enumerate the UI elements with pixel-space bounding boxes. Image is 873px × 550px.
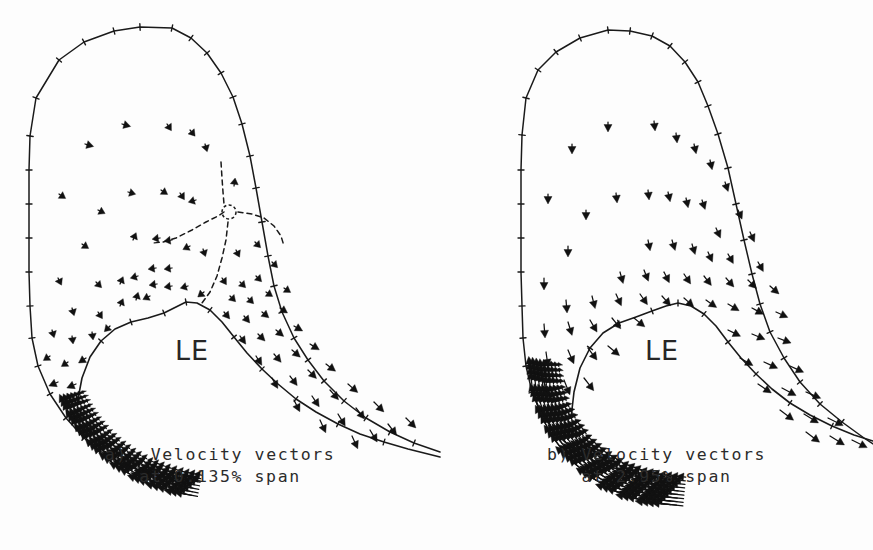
- velocity-vector-62-shaft: [782, 388, 789, 392]
- velocity-vector-plot-b: LE: [440, 0, 873, 490]
- velocity-vector-2-head: [188, 129, 195, 136]
- velocity-vector-6-head: [129, 189, 136, 197]
- velocity-vector-32-shaft: [770, 286, 773, 289]
- velocity-vector-39-head: [96, 311, 103, 318]
- figure-root: LE a) Velocity vectors at 0.135% span LE…: [0, 0, 873, 550]
- leading-edge-label: LE: [175, 335, 209, 366]
- outer-node-tick-15: [265, 255, 271, 256]
- velocity-vector-44-shaft: [568, 322, 570, 328]
- velocity-vector-45-shaft: [262, 312, 264, 313]
- velocity-vector-44-shaft: [244, 316, 245, 318]
- velocity-vector-10-head: [665, 194, 673, 202]
- outer-node-tick-16: [749, 273, 755, 275]
- outer-node-tick-16: [271, 285, 277, 287]
- velocity-vector-43-shaft: [224, 312, 225, 314]
- velocity-vector-55-head: [43, 354, 50, 361]
- velocity-vector-26-shaft: [644, 270, 646, 274]
- velocity-vector-48-head: [68, 337, 76, 344]
- velocity-vector-25-head: [617, 275, 625, 283]
- velocity-vector-52-shaft: [258, 334, 260, 336]
- velocity-vector-11-shaft: [686, 198, 687, 200]
- caption-a-line1: a) Velocity vectors: [0, 444, 440, 466]
- wall-vector-r5-29-shaft: [668, 494, 683, 496]
- blade-node-tick-1: [130, 319, 132, 325]
- velocity-vector-31-shaft: [222, 278, 223, 279]
- panel-b: LE b) Velocity vectors at 2.95% span: [440, 0, 873, 490]
- velocity-vector-34-shaft: [230, 296, 231, 297]
- velocity-vector-19-shaft: [236, 250, 237, 252]
- velocity-vector-7-head: [544, 197, 552, 205]
- velocity-vector-5-shaft: [710, 160, 711, 162]
- wall-vector-r0-12-shaft: [585, 432, 586, 433]
- velocity-vector-0-head: [123, 121, 131, 129]
- velocity-vector-46-head: [613, 320, 621, 328]
- velocity-vector-1-head: [650, 123, 658, 131]
- velocity-vector-7-head: [160, 188, 167, 195]
- velocity-vector-50-shaft: [109, 326, 110, 327]
- velocity-vector-26-head: [164, 264, 171, 272]
- velocity-vector-57-head: [79, 356, 87, 363]
- velocity-vector-61-shaft: [758, 384, 765, 389]
- velocity-vector-44-head: [242, 315, 250, 323]
- velocity-vector-34-shaft: [592, 296, 593, 301]
- outer-node-tick-13: [725, 167, 731, 169]
- velocity-vector-53-shaft: [276, 330, 278, 332]
- velocity-vector-13-shaft: [133, 238, 134, 240]
- velocity-vector-10-shaft: [668, 192, 669, 194]
- wall-vector-r6-25-shaft: [182, 493, 198, 496]
- velocity-vector-36-head: [640, 296, 648, 304]
- velocity-vector-19-shaft: [672, 240, 673, 243]
- velocity-vector-65-head: [290, 377, 298, 385]
- velocity-vector-34-head: [228, 294, 235, 301]
- velocity-vector-0-shaft: [122, 124, 124, 125]
- velocity-vector-23-shaft: [120, 282, 121, 284]
- velocity-vector-45-shaft: [590, 320, 593, 326]
- separatrix-branch-0: [221, 162, 224, 204]
- velocity-vector-16-shaft: [750, 232, 751, 235]
- outer-node-tick-14: [259, 221, 265, 222]
- velocity-vector-18-head: [645, 243, 653, 251]
- velocity-vector-6-head: [722, 183, 730, 191]
- velocity-vector-76-shaft: [352, 436, 355, 442]
- velocity-vector-17-shaft: [203, 249, 204, 251]
- vector-field-b: [540, 121, 867, 448]
- velocity-vector-24-head: [540, 283, 548, 291]
- outer-node-tick-15: [741, 239, 747, 240]
- velocity-vector-17-head: [200, 249, 208, 256]
- velocity-vector-67-shaft: [806, 432, 814, 438]
- velocity-vector-33-head: [562, 305, 570, 313]
- velocity-vector-57-shaft: [84, 358, 86, 359]
- velocity-vector-29-shaft: [704, 276, 707, 280]
- velocity-vector-18-shaft: [255, 242, 256, 243]
- separatrix-branch-1: [153, 212, 224, 243]
- velocity-vector-42-shaft: [148, 296, 150, 297]
- velocity-vector-69-shaft: [312, 396, 315, 401]
- wall-vector-r7-29-shaft: [662, 500, 683, 502]
- velocity-vector-66-shaft: [828, 418, 836, 422]
- velocity-vector-24-head: [130, 273, 137, 281]
- velocity-vector-78-shaft: [388, 424, 392, 429]
- velocity-vector-12-shaft: [82, 244, 83, 245]
- velocity-vector-68-shaft: [830, 436, 838, 441]
- velocity-vector-31-shaft: [748, 280, 751, 283]
- velocity-vector-44-head: [566, 327, 574, 335]
- velocity-vector-36-head: [265, 290, 272, 297]
- velocity-vector-66-shaft: [308, 370, 311, 373]
- velocity-vector-71-shaft: [348, 384, 352, 388]
- wall-vector-r1-12-shaft: [582, 434, 583, 435]
- velocity-vector-69-head: [312, 398, 319, 406]
- velocity-vector-1-head: [165, 123, 172, 130]
- velocity-vector-77-shaft: [370, 430, 373, 436]
- velocity-vector-60-shaft: [292, 350, 295, 352]
- caption-b: b) Velocity vectors at 2.95% span: [440, 444, 873, 488]
- velocity-vector-35-shaft: [248, 298, 249, 299]
- velocity-vector-20-shaft: [692, 244, 693, 247]
- caption-b-line1: b) Velocity vectors: [440, 444, 873, 466]
- velocity-vector-12-head: [699, 201, 707, 209]
- velocity-vector-47-shaft: [634, 318, 639, 322]
- velocity-vector-61-shaft: [310, 344, 313, 346]
- velocity-vector-17-head: [564, 250, 572, 258]
- velocity-vector-75-shaft: [374, 402, 379, 407]
- outer-node-tick-5: [608, 27, 609, 33]
- velocity-vector-20-shaft: [272, 262, 273, 263]
